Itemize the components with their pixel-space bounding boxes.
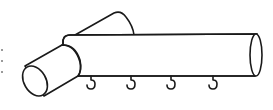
rod-illustration: [0, 0, 273, 110]
hook-4: [209, 76, 217, 89]
hook-1: [87, 76, 95, 89]
main-tube: [63, 34, 257, 76]
rod-drawing: [0, 0, 273, 110]
hook-2: [127, 76, 135, 89]
wedge-cap: [75, 12, 134, 35]
hooks: [87, 76, 217, 89]
edge-marks: [1, 49, 3, 73]
hook-3: [167, 76, 175, 89]
tube-end-cap: [250, 34, 262, 76]
